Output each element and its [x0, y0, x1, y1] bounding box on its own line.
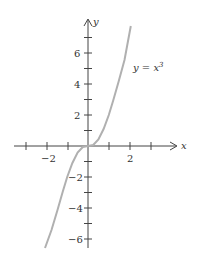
x-axis-label: x — [181, 140, 187, 151]
y-tick-label-2: 2 — [74, 110, 80, 121]
axes — [14, 19, 177, 248]
curve-label-exponent: 3 — [159, 61, 164, 69]
x-tick-label-2: 2 — [127, 153, 133, 164]
cubic-function-plot: −2 2 6 4 2 −2 −4 −6 x y y = x3 — [0, 0, 201, 264]
curve-label: y = x3 — [132, 61, 164, 73]
y-tick-label-neg2: −2 — [68, 172, 83, 183]
y-tick-label-neg6: −6 — [68, 234, 83, 245]
y-tick-label-4: 4 — [74, 79, 80, 90]
curve-label-base: y = x — [132, 62, 159, 73]
y-axis-label: y — [92, 16, 99, 27]
y-tick-label-6: 6 — [74, 48, 80, 59]
y-tick-label-neg4: −4 — [68, 203, 83, 214]
x-tick-label-neg2: −2 — [41, 153, 56, 164]
